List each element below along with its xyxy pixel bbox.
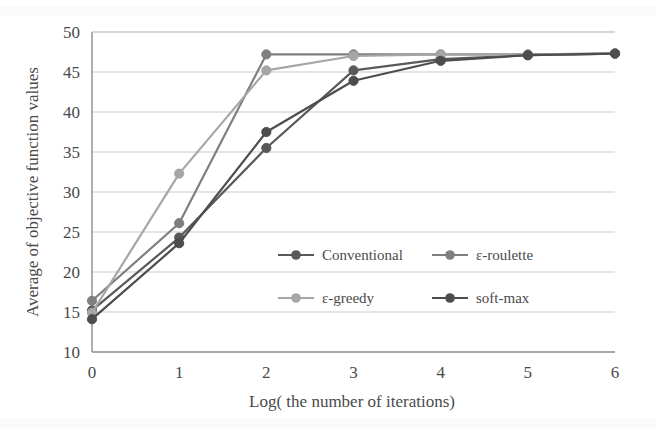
x-tick-label: 4 [436, 363, 445, 382]
legend-marker-icon [291, 250, 301, 260]
data-point [262, 143, 271, 152]
y-axis-ticks: 101520253035404550 [63, 23, 80, 362]
data-point [175, 219, 184, 228]
x-tick-label: 1 [175, 363, 184, 382]
data-point [175, 239, 184, 248]
data-point [175, 169, 184, 178]
y-tick-label: 15 [63, 303, 80, 322]
line-chart: 101520253035404550 0123456 Conventionalε… [0, 0, 656, 432]
legend-marker-icon [445, 293, 455, 303]
legend-label: ε-greedy [322, 290, 375, 306]
x-tick-label: 3 [349, 363, 358, 382]
data-point [262, 50, 271, 59]
x-tick-label: 5 [524, 363, 533, 382]
data-point [262, 66, 271, 75]
legend-label: ε-roulette [476, 247, 533, 263]
y-tick-label: 40 [63, 103, 80, 122]
y-axis-title: Average of objective function values [23, 67, 42, 317]
y-tick-label: 30 [63, 183, 80, 202]
data-point [262, 127, 271, 136]
data-point [436, 56, 445, 65]
legend-marker-icon [445, 250, 455, 260]
y-tick-label: 45 [63, 63, 80, 82]
data-point [349, 66, 358, 75]
y-tick-label: 50 [63, 23, 80, 42]
data-point [523, 51, 532, 60]
data-point [87, 315, 96, 324]
y-tick-label: 35 [63, 143, 80, 162]
data-point [610, 49, 619, 58]
legend-label: Conventional [322, 247, 403, 263]
x-tick-label: 0 [88, 363, 97, 382]
x-axis-title: Log( the number of iterations) [249, 392, 455, 411]
y-tick-label: 10 [63, 343, 80, 362]
y-tick-label: 25 [63, 223, 80, 242]
legend-label: soft-max [476, 290, 530, 306]
x-tick-label: 6 [611, 363, 620, 382]
data-point [87, 296, 96, 305]
y-tick-label: 20 [63, 263, 80, 282]
chart-figure: 101520253035404550 0123456 Conventionalε… [0, 0, 656, 432]
x-tick-label: 2 [262, 363, 271, 382]
data-point [349, 51, 358, 60]
data-point [349, 76, 358, 85]
legend-marker-icon [291, 293, 301, 303]
